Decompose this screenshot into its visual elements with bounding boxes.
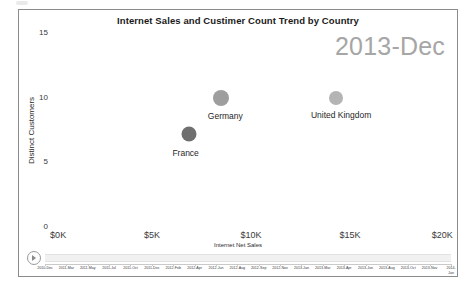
timeline-period-label[interactable]: 2013-Jan xyxy=(294,266,309,271)
timeline-period-label[interactable]: 2011-Dec xyxy=(144,266,159,271)
timeline-period-label[interactable]: 2011-May xyxy=(80,266,96,271)
timeline-period-label[interactable]: 2010-Dec xyxy=(37,266,53,271)
timeline-period-label[interactable]: 2012-Jun xyxy=(208,266,223,271)
timeline-period-label[interactable]: 2013-Apr xyxy=(337,266,352,271)
timeline-labels: 2010-Dec2011-Mar2011-May2011-Jul2011-Oct… xyxy=(45,266,451,280)
x-axis-tick-label: $5K xyxy=(144,230,160,240)
bubble-label: United Kingdom xyxy=(311,110,371,120)
x-axis-title: Internet Net Sales xyxy=(19,242,457,248)
timeline-period-label[interactable]: 2014-Jan xyxy=(446,266,455,275)
bubble-label: Germany xyxy=(208,111,243,121)
y-axis-tick-label: 5 xyxy=(44,157,48,166)
y-axis-title: Distinct Customers xyxy=(25,60,38,200)
timeline-period-label[interactable]: 2011-Mar xyxy=(59,266,74,271)
x-axis-tick-label: $10K xyxy=(240,230,261,240)
timeline-period-label[interactable]: 2012-Sep xyxy=(251,266,267,271)
y-axis-tick-label: 15 xyxy=(39,28,48,37)
timeline-axis-line xyxy=(45,264,451,265)
x-axis-tick-label: $0K xyxy=(50,230,66,240)
bubble-label: France xyxy=(172,148,198,158)
timeline-period-label[interactable]: 2012-Feb xyxy=(166,266,181,271)
y-axis-tick-label: 10 xyxy=(39,92,48,101)
play-button[interactable] xyxy=(27,251,41,265)
timeline-period-label[interactable]: 2011-Jul xyxy=(102,266,116,271)
timeline-slider-track[interactable] xyxy=(45,254,451,262)
timeline-period-label[interactable]: 2012-Nov xyxy=(272,266,288,271)
bubble-france[interactable] xyxy=(181,127,196,142)
x-axis-tick-label: $15K xyxy=(339,230,360,240)
timeline-period-label[interactable]: 2011-Oct xyxy=(123,266,138,271)
timeline-period-label[interactable]: 2012-Apr xyxy=(187,266,202,271)
timeline-period-label[interactable]: 2013-Jun xyxy=(358,266,373,271)
bubble-germany[interactable] xyxy=(213,90,229,106)
timeline-period-label[interactable]: 2013-Oct xyxy=(401,266,416,271)
scan-artifact xyxy=(16,1,28,5)
play-axis[interactable]: 2010-Dec2011-Mar2011-May2011-Jul2011-Oct… xyxy=(27,250,451,274)
y-axis-tick-label: 0 xyxy=(44,222,48,231)
bubble-chart-visual: Internet Sales and Custimer Count Trend … xyxy=(18,9,458,277)
plot-area: 051015$0K$5K$10K$15K$20KGermanyUnited Ki… xyxy=(53,32,449,226)
timeline-period-label[interactable]: 2012-Aug xyxy=(230,266,246,271)
timeline-period-label[interactable]: 2013-Mar xyxy=(315,266,330,271)
timeline-period-label[interactable]: 2013-Nov xyxy=(422,266,438,271)
chart-title: Internet Sales and Custimer Count Trend … xyxy=(19,15,457,26)
x-axis-tick-label: $20K xyxy=(432,230,453,240)
timeline-period-label[interactable]: 2013-Aug xyxy=(379,266,395,271)
bubble-united-kingdom[interactable] xyxy=(329,91,343,105)
